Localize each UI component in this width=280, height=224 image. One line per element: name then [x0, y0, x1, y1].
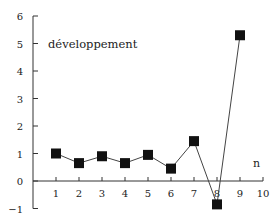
annotation-label: développement — [48, 37, 138, 51]
x-tick-label: 10 — [257, 188, 270, 199]
x-tick-label: 3 — [99, 188, 105, 199]
x-tick-label: 2 — [76, 188, 82, 199]
y-tick-label: 3 — [17, 94, 23, 105]
y-tick-label: −1 — [8, 204, 23, 215]
data-point-marker — [97, 151, 107, 161]
data-point-marker — [74, 158, 84, 168]
x-tick-label: 6 — [168, 188, 174, 199]
x-tick-label: 1 — [53, 188, 59, 199]
y-tick-label: 6 — [17, 11, 23, 22]
x-tick-label: 5 — [145, 188, 151, 199]
data-point-marker — [143, 150, 153, 160]
chart: −1012345612345678910 développement n — [0, 0, 280, 224]
y-tick-label: 0 — [17, 176, 23, 187]
data-point-marker — [235, 30, 245, 40]
data-point-marker — [51, 149, 61, 159]
data-point-marker — [212, 199, 222, 209]
y-tick-label: 1 — [17, 149, 23, 160]
x-tick-label: 9 — [237, 188, 243, 199]
y-tick-label: 2 — [17, 121, 23, 132]
data-point-marker — [120, 158, 130, 168]
data-series — [51, 30, 245, 209]
x-tick-label: 7 — [191, 188, 197, 199]
x-tick-label: 4 — [122, 188, 128, 199]
y-tick-label: 4 — [17, 66, 23, 77]
x-axis-label: n — [253, 157, 260, 170]
data-point-marker — [189, 136, 199, 146]
y-tick-label: 5 — [17, 39, 23, 50]
data-point-marker — [166, 164, 176, 174]
